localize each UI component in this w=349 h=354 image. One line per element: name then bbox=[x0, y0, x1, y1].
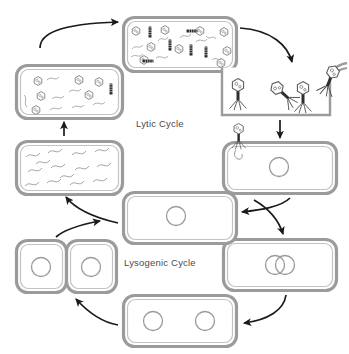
lysogenic-cycle-label: Lysogenic Cycle bbox=[124, 257, 196, 268]
divided-daughter-cells bbox=[17, 241, 117, 293]
prophage-integration-cell bbox=[224, 240, 337, 291]
arrow-synthesis-to-assembly bbox=[40, 22, 118, 48]
host-dna-degradation-cell bbox=[17, 142, 123, 195]
arrow-attachment-to-entry bbox=[242, 198, 290, 212]
diagram-canvas bbox=[0, 0, 349, 354]
released-phages-group bbox=[222, 63, 347, 115]
arrow-division-to-entry bbox=[56, 221, 100, 237]
host-cell-with-phage-dna bbox=[124, 193, 237, 244]
arrow-assembly-to-release bbox=[240, 28, 292, 62]
chromosome-replication-cell bbox=[124, 296, 237, 347]
phage-life-cycle-diagram: Lytic Cycle Lysogenic Cycle bbox=[0, 0, 349, 354]
lytic-cycle-label: Lytic Cycle bbox=[136, 118, 184, 129]
arrow-entry-to-degradation bbox=[66, 197, 118, 223]
phage-component-synthesis-cell bbox=[17, 66, 123, 119]
arrow-replication-to-division bbox=[76, 299, 118, 325]
arrow-integration-to-replication bbox=[244, 295, 286, 323]
phage-assembly-cell bbox=[124, 18, 237, 72]
